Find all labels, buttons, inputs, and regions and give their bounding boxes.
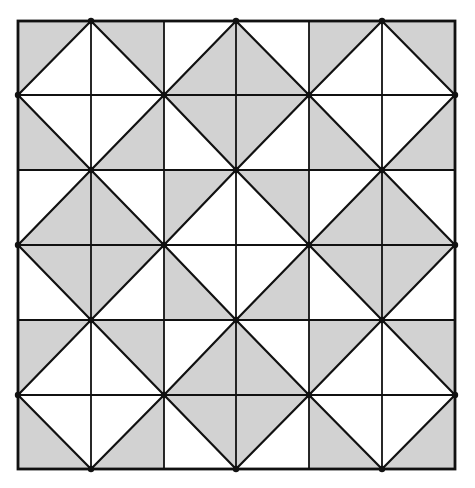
- vertex-dot: [452, 242, 458, 248]
- vertex-dot: [379, 18, 385, 24]
- grid-lines: [18, 21, 455, 469]
- vertex-dot: [161, 392, 167, 398]
- vertex-dot: [379, 317, 385, 323]
- triangle-tiling-diagram: Square tiling pattern of shaded and unsh…: [0, 0, 475, 488]
- vertex-dot: [88, 167, 94, 173]
- vertex-dot: [88, 317, 94, 323]
- vertex-dot: [233, 167, 239, 173]
- vertex-dot: [88, 466, 94, 472]
- vertex-dot: [306, 242, 312, 248]
- vertex-dot: [452, 392, 458, 398]
- vertex-dot: [452, 92, 458, 98]
- vertex-dot: [88, 18, 94, 24]
- vertex-dot: [306, 92, 312, 98]
- vertex-dot: [15, 392, 21, 398]
- vertex-dot: [306, 392, 312, 398]
- vertex-dot: [15, 92, 21, 98]
- vertex-dot: [15, 242, 21, 248]
- vertex-dot: [233, 317, 239, 323]
- vertex-dot: [233, 18, 239, 24]
- vertex-dot: [379, 167, 385, 173]
- vertex-dot: [233, 466, 239, 472]
- vertex-dot: [379, 466, 385, 472]
- vertex-dot: [161, 92, 167, 98]
- vertex-dot: [161, 242, 167, 248]
